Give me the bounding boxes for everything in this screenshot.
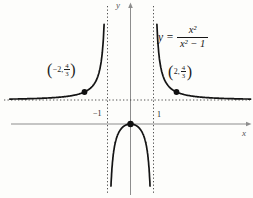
- point-dot: [127, 121, 133, 127]
- fraction-numerator: 4: [182, 64, 185, 71]
- equation-denominator: x² − 1: [177, 37, 208, 51]
- x-axis-label: x: [242, 129, 246, 138]
- equation-fraction: x² x² − 1: [177, 24, 208, 50]
- fraction-numerator: 4: [65, 62, 68, 69]
- point-right-fraction: 4 3: [181, 64, 186, 80]
- y-axis-label: y: [116, 1, 120, 10]
- equation-lhs: y: [158, 31, 163, 43]
- point-left-fraction: 4 3: [64, 62, 69, 78]
- point-dot: [82, 89, 88, 95]
- fraction-denominator: 3: [181, 71, 186, 79]
- x-axis-arrowhead: [246, 122, 252, 126]
- equation-numerator: x²: [189, 24, 197, 37]
- close-paren: ): [70, 63, 75, 77]
- point-left-x: −2,: [53, 66, 64, 74]
- point-dot: [174, 89, 180, 95]
- point-label-left: ( −2, 4 3 ): [47, 62, 76, 78]
- point-label-right: ( 2, 4 3 ): [168, 64, 192, 80]
- open-paren: (: [168, 65, 173, 79]
- fraction-denominator: 3: [64, 69, 69, 77]
- tick-label-neg-one: −1: [93, 110, 102, 118]
- equation-equals: =: [166, 31, 174, 43]
- open-paren: (: [47, 63, 52, 77]
- close-paren: ): [187, 65, 192, 79]
- equation-label: y = x² x² − 1: [158, 24, 208, 50]
- tick-label-one: 1: [157, 111, 161, 119]
- function-graph: y x −1 1 y = x² x² − 1 ( −2, 4 3 ) ( 2, …: [0, 0, 253, 198]
- plot-svg: [0, 0, 253, 198]
- point-right-x: 2,: [174, 68, 180, 76]
- y-axis-arrowhead: [128, 3, 133, 9]
